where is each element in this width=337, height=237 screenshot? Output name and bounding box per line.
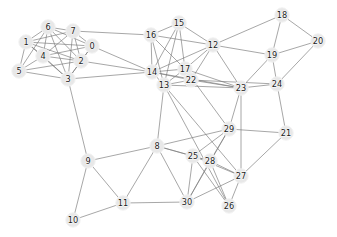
- graph-node-1[interactable]: 1: [19, 35, 33, 49]
- node-label-16: 16: [146, 30, 156, 40]
- graph-node-11[interactable]: 11: [116, 196, 130, 210]
- graph-node-20[interactable]: 20: [311, 34, 325, 48]
- node-label-24: 24: [272, 79, 282, 89]
- graph-node-22[interactable]: 22: [184, 73, 198, 87]
- graph-node-10[interactable]: 10: [66, 213, 80, 227]
- graph-node-27[interactable]: 27: [234, 169, 248, 183]
- graph-node-24[interactable]: 24: [270, 77, 284, 91]
- graph-node-23[interactable]: 23: [234, 81, 248, 95]
- node-label-4: 4: [40, 51, 45, 61]
- graph-edge-12-18: [213, 15, 282, 45]
- node-label-18: 18: [277, 10, 287, 20]
- node-label-10: 10: [68, 215, 78, 225]
- node-label-11: 11: [118, 198, 128, 208]
- node-label-22: 22: [186, 75, 196, 85]
- graph-node-26[interactable]: 26: [222, 199, 236, 213]
- graph-edge-10-11: [73, 203, 123, 220]
- graph-node-16[interactable]: 16: [144, 28, 158, 42]
- node-label-0: 0: [89, 41, 94, 51]
- graph-edge-8-30: [157, 146, 187, 202]
- graph-edge-21-27: [241, 133, 286, 176]
- node-label-13: 13: [159, 80, 169, 90]
- node-label-20: 20: [313, 36, 323, 46]
- node-label-12: 12: [208, 40, 218, 50]
- graph-node-30[interactable]: 30: [180, 195, 194, 209]
- node-label-3: 3: [65, 74, 70, 84]
- graph-edge-3-14: [68, 72, 152, 79]
- graph-node-3[interactable]: 3: [61, 72, 75, 86]
- graph-node-19[interactable]: 19: [265, 48, 279, 62]
- graph-edge-0-14: [92, 46, 152, 72]
- graph-node-12[interactable]: 12: [206, 38, 220, 52]
- network-graph-figure: 0123456789101112131415161718192021222324…: [0, 0, 337, 237]
- graph-edge-3-9: [68, 79, 88, 161]
- node-label-14: 14: [147, 67, 157, 77]
- graph-node-5[interactable]: 5: [12, 64, 26, 78]
- node-label-2: 2: [78, 56, 83, 66]
- node-label-25: 25: [188, 151, 198, 161]
- edge-layer: [19, 15, 318, 220]
- node-label-29: 29: [224, 124, 234, 134]
- graph-edge-11-30: [123, 202, 187, 203]
- node-label-1: 1: [23, 37, 28, 47]
- graph-node-28[interactable]: 28: [203, 154, 217, 168]
- graph-edge-27-30: [187, 176, 241, 202]
- graph-edge-8-11: [123, 146, 157, 203]
- graph-node-29[interactable]: 29: [222, 122, 236, 136]
- graph-node-25[interactable]: 25: [186, 149, 200, 163]
- graph-edge-7-16: [73, 31, 151, 35]
- graph-node-7[interactable]: 7: [66, 24, 80, 38]
- graph-edge-21-29: [229, 129, 286, 133]
- graph-node-13[interactable]: 13: [157, 78, 171, 92]
- node-label-19: 19: [267, 50, 277, 60]
- graph-canvas: 0123456789101112131415161718192021222324…: [0, 0, 337, 237]
- graph-node-6[interactable]: 6: [41, 20, 55, 34]
- node-label-27: 27: [236, 171, 246, 181]
- node-label-9: 9: [85, 156, 90, 166]
- node-label-8: 8: [154, 141, 159, 151]
- graph-node-14[interactable]: 14: [145, 65, 159, 79]
- node-label-6: 6: [45, 22, 50, 32]
- graph-edge-12-19: [213, 45, 272, 55]
- node-label-5: 5: [16, 66, 21, 76]
- graph-node-0[interactable]: 0: [85, 39, 99, 53]
- graph-node-9[interactable]: 9: [81, 154, 95, 168]
- graph-edge-2-14: [81, 61, 152, 72]
- node-layer: 0123456789101112131415161718192021222324…: [12, 8, 325, 227]
- graph-node-15[interactable]: 15: [172, 16, 186, 30]
- graph-edge-8-13: [157, 85, 164, 146]
- node-label-30: 30: [182, 197, 192, 207]
- graph-node-18[interactable]: 18: [275, 8, 289, 22]
- graph-node-21[interactable]: 21: [279, 126, 293, 140]
- node-label-23: 23: [236, 83, 246, 93]
- graph-edge-8-9: [88, 146, 157, 161]
- node-label-26: 26: [224, 201, 234, 211]
- graph-node-8[interactable]: 8: [150, 139, 164, 153]
- node-label-7: 7: [70, 26, 75, 36]
- graph-node-2[interactable]: 2: [74, 54, 88, 68]
- node-label-28: 28: [205, 156, 215, 166]
- graph-node-4[interactable]: 4: [36, 49, 50, 63]
- graph-edge-9-10: [73, 161, 88, 220]
- node-label-17: 17: [180, 64, 190, 74]
- graph-edge-9-11: [88, 161, 123, 203]
- node-label-21: 21: [281, 128, 291, 138]
- node-label-15: 15: [174, 18, 184, 28]
